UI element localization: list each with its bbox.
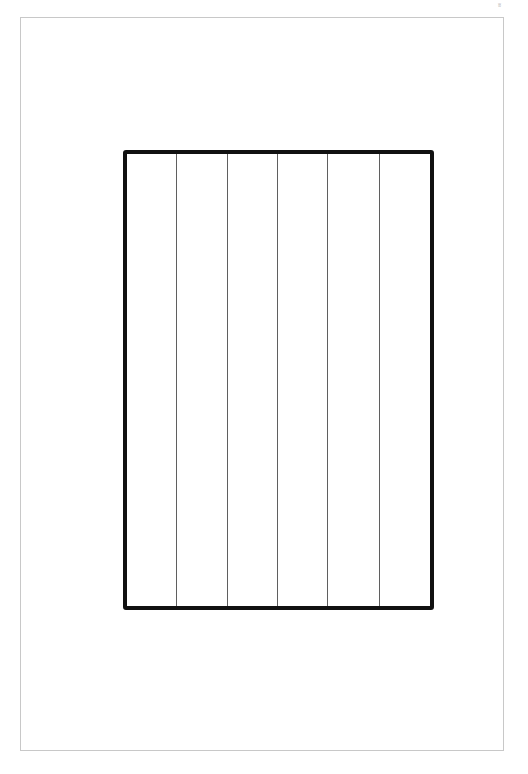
column-divider: [379, 154, 380, 606]
ruled-column-grid: [123, 150, 434, 610]
column-divider: [277, 154, 278, 606]
column-divider: [327, 154, 328, 606]
column-divider: [227, 154, 228, 606]
column-divider: [176, 154, 177, 606]
corner-mark: ʬ: [498, 2, 506, 7]
